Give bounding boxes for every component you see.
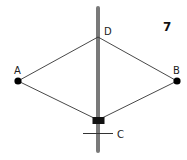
figure-number: 7	[163, 20, 171, 34]
label-b: B	[173, 65, 180, 76]
label-a: A	[14, 65, 21, 76]
mechanism-diagram: A B D C 7	[0, 0, 187, 160]
link-a-c	[18, 81, 98, 120]
link-b-c	[98, 81, 177, 120]
label-c: C	[117, 129, 124, 140]
point-a-dot	[14, 77, 21, 84]
link-d-b	[98, 37, 177, 81]
label-d: D	[104, 26, 112, 37]
link-a-d	[18, 37, 98, 81]
point-b-dot	[173, 77, 180, 84]
slider-block-c	[93, 117, 105, 124]
